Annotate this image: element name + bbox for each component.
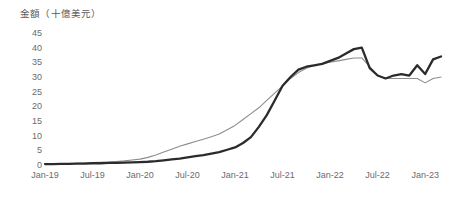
- y-axis-tick-label: 5: [16, 145, 42, 155]
- y-axis-tick-label: 35: [16, 57, 42, 67]
- y-axis-tick-label: 10: [16, 131, 42, 141]
- x-axis: Jan-19Jul-19Jan-20Jul-20Jan-21Jul-21Jan-…: [45, 170, 441, 186]
- x-axis-tick-label: Jan-21: [221, 170, 249, 180]
- y-axis-tick-label: 40: [16, 43, 42, 53]
- y-axis-tick-label: 30: [16, 72, 42, 82]
- y-axis-tick-label: 0: [16, 160, 42, 170]
- y-axis-tick-label: 15: [16, 116, 42, 126]
- y-axis-tick-label: 20: [16, 101, 42, 111]
- x-axis-tick-label: Jul-22: [365, 170, 390, 180]
- plot-area: [45, 33, 441, 165]
- data-line-series-dark: [45, 48, 441, 164]
- x-axis-tick-label: Jul-21: [270, 170, 295, 180]
- x-axis-tick-label: Jul-19: [80, 170, 105, 180]
- y-axis-tick-label: 25: [16, 87, 42, 97]
- plot-svg: [45, 33, 441, 165]
- x-axis-tick-label: Jan-20: [126, 170, 154, 180]
- x-axis-tick-label: Jan-19: [31, 170, 59, 180]
- y-axis-tick-label: 45: [16, 28, 42, 38]
- line-chart: 金額（十億美元） 051015202530354045 Jan-19Jul-19…: [0, 0, 455, 200]
- data-line-series-gray: [45, 58, 441, 164]
- x-axis-tick-label: Jan-23: [411, 170, 439, 180]
- x-axis-tick-label: Jan-22: [316, 170, 344, 180]
- x-axis-tick-label: Jul-20: [175, 170, 200, 180]
